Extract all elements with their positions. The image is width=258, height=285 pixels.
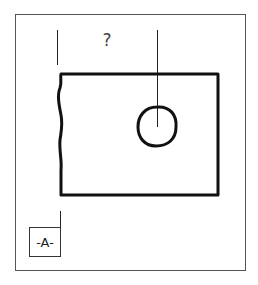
technical-drawing: ? -A- bbox=[0, 0, 258, 285]
question-mark-annotation: ? bbox=[102, 30, 111, 50]
drawing-frame bbox=[16, 15, 246, 271]
datum-label: -A- bbox=[36, 235, 54, 250]
